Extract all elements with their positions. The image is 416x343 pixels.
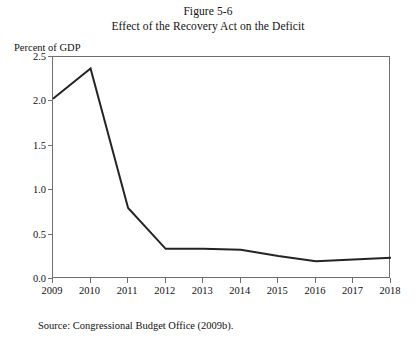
x-axis-tick-label: 2011 bbox=[117, 285, 138, 296]
x-axis-tick-mark bbox=[352, 278, 353, 283]
y-axis-tick-label: 1.5 bbox=[33, 139, 46, 150]
x-axis-tick-mark bbox=[390, 278, 391, 283]
x-axis-tick-mark bbox=[52, 278, 53, 283]
plot-area bbox=[52, 56, 390, 278]
figure-number: Figure 5-6 bbox=[0, 4, 416, 19]
x-axis-tick-mark bbox=[165, 278, 166, 283]
data-line-svg bbox=[53, 57, 391, 279]
x-axis-tick-label: 2010 bbox=[79, 285, 100, 296]
x-axis-tick-label: 2012 bbox=[154, 285, 175, 296]
y-axis-tick-label: 1.0 bbox=[33, 184, 46, 195]
x-axis-tick-mark bbox=[90, 278, 91, 283]
x-axis-tick-marks bbox=[52, 278, 390, 284]
y-axis-tick-label: 0.0 bbox=[33, 273, 46, 284]
x-axis-tick-labels: 2009201020112012201320142015201620172018 bbox=[52, 285, 390, 301]
x-axis-tick-label: 2016 bbox=[304, 285, 325, 296]
series-line bbox=[53, 69, 391, 262]
page-title: Effect of the Recovery Act on the Defici… bbox=[0, 19, 416, 34]
x-axis-tick-label: 2017 bbox=[342, 285, 363, 296]
x-axis-tick-label: 2013 bbox=[192, 285, 213, 296]
figure-container: Figure 5-6 Effect of the Recovery Act on… bbox=[0, 0, 416, 343]
y-axis-tick-labels: 0.00.51.01.52.02.5 bbox=[0, 56, 46, 278]
y-axis-tick-label: 2.0 bbox=[33, 95, 46, 106]
x-axis-tick-label: 2015 bbox=[267, 285, 288, 296]
x-axis-tick-label: 2009 bbox=[42, 285, 63, 296]
x-axis-tick-mark bbox=[277, 278, 278, 283]
x-axis-tick-mark bbox=[127, 278, 128, 283]
y-axis-tick-label: 0.5 bbox=[33, 228, 46, 239]
x-axis-tick-label: 2014 bbox=[229, 285, 250, 296]
x-axis-tick-mark bbox=[202, 278, 203, 283]
y-axis-label: Percent of GDP bbox=[14, 42, 81, 53]
figure-titles: Figure 5-6 Effect of the Recovery Act on… bbox=[0, 0, 416, 33]
source-note: Source: Congressional Budget Office (200… bbox=[38, 320, 233, 331]
x-axis-tick-mark bbox=[240, 278, 241, 283]
x-axis-tick-mark bbox=[315, 278, 316, 283]
x-axis-tick-label: 2018 bbox=[380, 285, 401, 296]
y-axis-tick-label: 2.5 bbox=[33, 51, 46, 62]
